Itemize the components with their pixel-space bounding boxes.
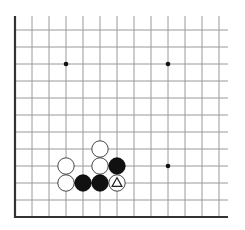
white-stone[interactable]	[109, 175, 125, 191]
stones-layer	[58, 141, 125, 191]
star-point-icon	[166, 62, 171, 67]
star-point-icon	[64, 62, 69, 67]
star-point-icon	[166, 164, 171, 169]
white-stone[interactable]	[58, 175, 74, 191]
black-stone[interactable]	[75, 175, 91, 191]
black-stone[interactable]	[92, 175, 108, 191]
white-stone[interactable]	[58, 158, 74, 174]
black-stone[interactable]	[109, 158, 125, 174]
go-board	[0, 0, 245, 230]
white-stone[interactable]	[92, 141, 108, 157]
white-stone[interactable]	[92, 158, 108, 174]
